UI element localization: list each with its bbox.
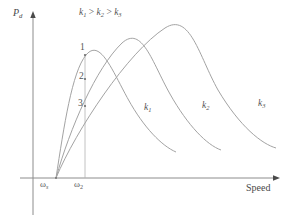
annotation-sub-3: 3: [118, 11, 121, 18]
inequality-annotation: k1 > k2 > k3: [79, 8, 122, 18]
curve-k3: [56, 25, 276, 178]
tick-omega-s-subscript: s: [46, 184, 48, 190]
y-axis-label: Pd: [13, 8, 23, 19]
x-tick-label-omega-2: ω2: [74, 180, 83, 190]
x-axis-arrowhead: [273, 175, 280, 180]
curve-label-k3-subscript: 3: [262, 102, 265, 109]
point-marker-3: [84, 105, 86, 107]
point-marker-1: [84, 54, 86, 56]
curve-label-k2: k2: [202, 101, 209, 111]
annotation-gt-2: >: [104, 7, 114, 17]
point-label-3: 3: [78, 99, 83, 109]
tick-omega-2-subscript: 2: [80, 184, 83, 190]
annotation-gt-1: >: [86, 7, 96, 17]
point-label-1: 1: [80, 43, 85, 53]
curve-k1: [56, 50, 176, 178]
y-axis-label-subscript: d: [19, 12, 22, 19]
point-label-2: 2: [79, 72, 84, 82]
x-axis-label: Speed: [246, 183, 270, 193]
curve-label-k1-subscript: 1: [148, 106, 151, 113]
x-tick-label-omega-s: ωs: [40, 180, 48, 190]
y-axis-arrowhead: [30, 11, 35, 18]
tick-marker-omega-s: [55, 177, 57, 179]
point-marker-2: [84, 78, 86, 80]
curve-label-k2-subscript: 2: [206, 104, 209, 111]
curve-label-k3: k3: [258, 99, 265, 109]
curve-label-k1: k1: [144, 103, 151, 113]
torque-speed-chart: Pd Speed k1 > k2 > k3 ωs ω2 1 2 3 k1 k2 …: [0, 0, 296, 222]
